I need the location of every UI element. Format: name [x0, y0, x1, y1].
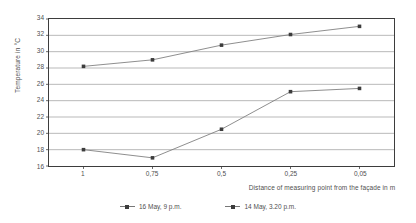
y-tick-label: 26 [18, 81, 44, 88]
y-tick-label: 34 [18, 15, 44, 22]
x-tick-label: 1 [63, 170, 103, 177]
y-tick-label: 22 [18, 114, 44, 121]
legend-label: 14 May, 3.20 p.m. [244, 203, 296, 210]
y-tick-label: 20 [18, 130, 44, 137]
y-tick-label: 32 [18, 31, 44, 38]
data-point-marker [82, 65, 86, 69]
y-axis-tick-labels: 16182022242628303234 [14, 0, 44, 223]
temperature-distance-line-chart: Temperature in °C 16182022242628303234 1… [0, 0, 416, 223]
legend-marker-icon [120, 203, 135, 210]
x-tick-label: 0,75 [132, 170, 172, 177]
y-tick-label: 18 [18, 147, 44, 154]
x-tick-label: 0,25 [271, 170, 311, 177]
data-point-marker [220, 43, 224, 47]
y-tick-label: 24 [18, 97, 44, 104]
x-axis-title: Distance of measuring point from the faç… [230, 184, 414, 191]
data-point-marker [358, 87, 362, 91]
y-tick-label: 30 [18, 48, 44, 55]
data-point-marker [220, 127, 224, 131]
data-point-marker [151, 58, 155, 62]
chart-legend: 16 May, 9 p.m.14 May, 3.20 p.m. [0, 203, 416, 210]
y-tick-label: 16 [18, 164, 44, 171]
y-tick-label: 28 [18, 64, 44, 71]
data-point-marker [82, 148, 86, 152]
legend-item-0[interactable]: 16 May, 9 p.m. [120, 203, 182, 210]
x-tick-label: 0,5 [202, 170, 242, 177]
x-tick-label: 0,05 [340, 170, 380, 177]
data-point-marker [289, 33, 293, 37]
x-axis-tick-labels: 10,750,50,250,05 [48, 170, 395, 184]
data-point-marker [358, 25, 362, 29]
series-line-0 [84, 88, 360, 157]
data-point-marker [289, 90, 293, 94]
plot-area [48, 18, 395, 167]
legend-marker-icon [225, 203, 240, 210]
plot-svg [49, 19, 394, 166]
legend-label: 16 May, 9 p.m. [139, 203, 182, 210]
data-point-marker [151, 156, 155, 160]
legend-item-1[interactable]: 14 May, 3.20 p.m. [225, 203, 296, 210]
